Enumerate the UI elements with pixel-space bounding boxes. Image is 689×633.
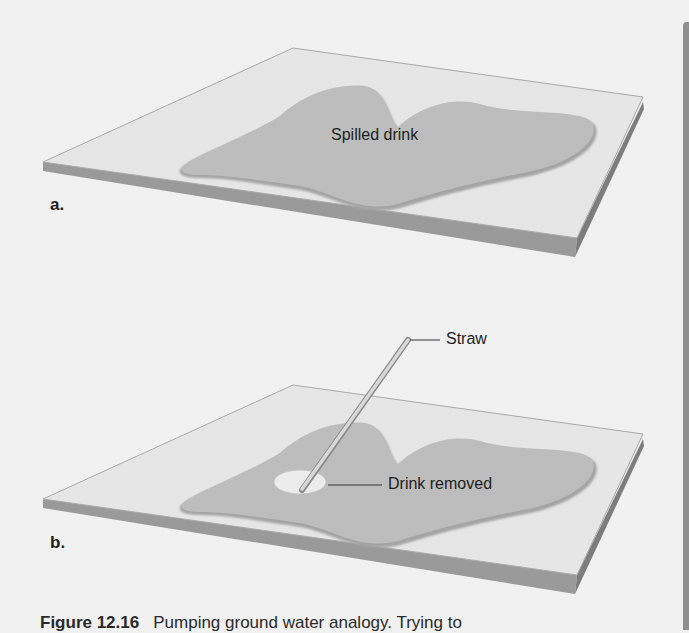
straw-label: Straw <box>446 330 487 348</box>
figure-number: Figure 12.16 <box>40 613 139 632</box>
drink-removed-label: Drink removed <box>388 475 492 493</box>
panel-b-diagram <box>43 340 644 594</box>
figure-caption: Figure 12.16Pumping ground water analogy… <box>40 613 462 633</box>
panel-a-diagram <box>43 48 644 257</box>
spilled-drink-label: Spilled drink <box>331 126 418 144</box>
caption-text: Pumping ground water analogy. Trying to <box>153 613 462 632</box>
panel-a-letter: a. <box>50 195 64 215</box>
panel-b-letter: b. <box>50 533 65 553</box>
